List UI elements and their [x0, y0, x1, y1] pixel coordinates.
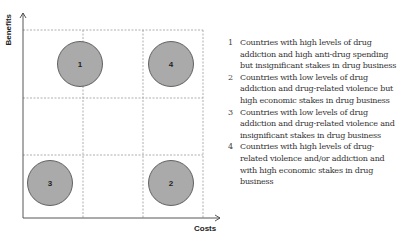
circle-1: 1 — [58, 42, 103, 87]
legend-item-number: 2 — [228, 72, 240, 107]
legend-item-text: Countries with high levels of drug-relat… — [240, 141, 400, 187]
legend: 1 Countries with high levels of drug add… — [228, 37, 400, 188]
matrix-graphic: 1 4 3 2 — [0, 0, 222, 243]
legend-item-text: Countries with high levels of drug addic… — [240, 37, 400, 72]
legend-item-number: 4 — [228, 141, 240, 187]
circle-2: 2 — [149, 161, 194, 206]
legend-item: 4 Countries with high levels of drug-rel… — [228, 141, 400, 187]
circle-4-label: 4 — [169, 60, 174, 69]
legend-item-text: Countries with low levels of drug addict… — [240, 107, 400, 142]
legend-item-number: 1 — [228, 37, 240, 72]
circle-2-label: 2 — [169, 179, 174, 188]
cost-benefit-matrix: 1 4 3 2 Benefits Costs — [0, 0, 222, 243]
circle-3: 3 — [28, 161, 73, 206]
circle-1-label: 1 — [78, 60, 83, 69]
legend-item: 1 Countries with high levels of drug add… — [228, 37, 400, 72]
legend-item: 3 Countries with low levels of drug addi… — [228, 107, 400, 142]
circle-4: 4 — [149, 42, 194, 87]
legend-item-number: 3 — [228, 107, 240, 142]
legend-item-text: Countries with low levels of drug addict… — [240, 72, 400, 107]
legend-item: 2 Countries with low levels of drug addi… — [228, 72, 400, 107]
x-axis-label: Costs — [194, 224, 216, 233]
circle-3-label: 3 — [48, 179, 53, 188]
y-axis-label: Benefits — [4, 14, 13, 46]
